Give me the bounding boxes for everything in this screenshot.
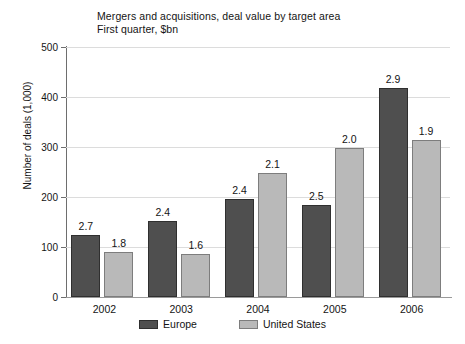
y-axis-tick-label: 0 <box>18 292 58 303</box>
bar-value-label: 2.9 <box>373 73 414 85</box>
legend-label: Europe <box>163 318 197 330</box>
y-axis-tick-mark <box>61 247 66 248</box>
chart-title-line1: Mergers and acquisitions, deal value by … <box>97 10 341 23</box>
bar-value-label: 1.9 <box>406 125 447 137</box>
bar-value-label: 2.4 <box>219 184 260 196</box>
y-axis-tick-label: 100 <box>18 242 58 253</box>
y-axis-tick-label: 300 <box>18 142 58 153</box>
plot-area: 0100200300400500 2.71.82.41.62.42.12.52.… <box>66 47 450 297</box>
bar-2002-europe <box>71 235 100 297</box>
bar-value-label: 2.0 <box>329 133 370 145</box>
bar-2005-europe <box>302 205 331 298</box>
y-axis-tick-mark <box>61 297 66 298</box>
y-axis-tick-label: 500 <box>18 42 58 53</box>
legend-swatch-icon <box>239 320 258 329</box>
bar-chart: Mergers and acquisitions, deal value by … <box>0 0 465 344</box>
chart-title-line2: First quarter, $bn <box>97 23 341 36</box>
legend-item-us[interactable]: United States <box>239 318 326 330</box>
bar-value-label: 1.8 <box>98 237 139 249</box>
legend-label: United States <box>263 318 326 330</box>
chart-title: Mergers and acquisitions, deal value by … <box>97 10 341 36</box>
bar-value-label: 2.1 <box>252 158 293 170</box>
bar-value-label: 2.7 <box>65 220 106 232</box>
bar-2003-united-states <box>181 254 210 297</box>
legend-item-europe[interactable]: Europe <box>139 318 197 330</box>
x-axis-tick-label-2004: 2004 <box>220 303 297 315</box>
y-axis-tick-label: 400 <box>18 92 58 103</box>
bar-2005-united-states <box>335 148 364 297</box>
bar-value-label: 2.5 <box>296 190 337 202</box>
bar-value-label: 2.4 <box>142 206 183 218</box>
x-axis-tick-label-2006: 2006 <box>373 303 450 315</box>
bar-2004-united-states <box>258 173 287 298</box>
x-axis-tick-label-2005: 2005 <box>296 303 373 315</box>
bar-2002-united-states <box>104 252 133 297</box>
bar-2006-united-states <box>412 140 441 298</box>
y-axis-tick-mark <box>61 147 66 148</box>
x-axis-tick-label-2003: 2003 <box>143 303 220 315</box>
bar-2006-europe <box>379 88 408 297</box>
y-axis-tick-mark <box>61 47 66 48</box>
y-axis-tick-mark <box>61 197 66 198</box>
bar-2003-europe <box>148 221 177 297</box>
gridline <box>66 297 450 298</box>
gridline <box>66 47 450 48</box>
bar-2004-europe <box>225 199 254 298</box>
x-axis-tick-label-2002: 2002 <box>66 303 143 315</box>
bar-value-label: 1.6 <box>175 239 216 251</box>
y-axis-tick-label: 200 <box>18 192 58 203</box>
y-axis-tick-mark <box>61 97 66 98</box>
chart-legend: EuropeUnited States <box>0 318 465 330</box>
legend-swatch-icon <box>139 320 158 329</box>
